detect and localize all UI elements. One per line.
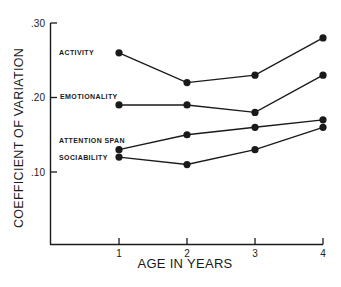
y-ticks: .10.20.30 bbox=[31, 18, 57, 178]
y-tick-label: .20 bbox=[31, 92, 45, 103]
x-tick-label: 3 bbox=[252, 248, 258, 259]
series-line bbox=[119, 127, 323, 164]
series-attention-span bbox=[115, 116, 326, 153]
series-label: EMOTIONALITY bbox=[60, 93, 118, 100]
data-point bbox=[115, 101, 122, 108]
data-point bbox=[183, 101, 190, 108]
series-labels: ACTIVITYEMOTIONALITYATTENTION SPANSOCIAB… bbox=[59, 49, 125, 160]
data-point bbox=[251, 109, 258, 116]
data-point bbox=[319, 116, 326, 123]
series-activity bbox=[115, 34, 326, 86]
x-tick-label: 1 bbox=[116, 248, 122, 259]
y-axis-label: COEFFICIENT OF VARIATION bbox=[12, 48, 26, 228]
data-point bbox=[115, 146, 122, 153]
series-label: SOCIABILITY bbox=[59, 154, 108, 161]
series-layer bbox=[115, 34, 326, 168]
y-tick-label: .10 bbox=[31, 167, 45, 178]
series-line bbox=[119, 120, 323, 150]
x-tick-label: 4 bbox=[320, 248, 326, 259]
data-point bbox=[115, 154, 122, 161]
series-line bbox=[119, 38, 323, 83]
data-point bbox=[251, 124, 258, 131]
data-point bbox=[183, 161, 190, 168]
series-label: ATTENTION SPAN bbox=[59, 137, 125, 144]
data-point bbox=[115, 49, 122, 56]
data-point bbox=[319, 72, 326, 79]
data-point bbox=[251, 146, 258, 153]
data-point bbox=[319, 34, 326, 41]
y-tick-label: .30 bbox=[31, 18, 45, 29]
data-point bbox=[251, 72, 258, 79]
data-point bbox=[183, 131, 190, 138]
series-label: ACTIVITY bbox=[59, 49, 94, 56]
data-point bbox=[183, 79, 190, 86]
series-line bbox=[119, 75, 323, 112]
data-point bbox=[319, 124, 326, 131]
x-axis-label: AGE IN YEARS bbox=[137, 256, 232, 271]
line-chart: COEFFICIENT OF VARIATION .10.20.30 1234 … bbox=[0, 0, 341, 287]
